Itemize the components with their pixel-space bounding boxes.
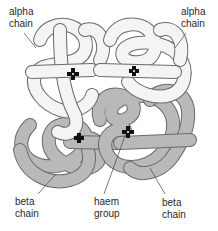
label-haem-group: haem group <box>94 196 120 220</box>
label-alpha-chain-left: alpha chain <box>9 6 33 30</box>
label-beta-chain-right: beta chain <box>162 197 186 221</box>
label-beta-chain-left: beta chain <box>15 196 39 220</box>
label-alpha-chain-right: alpha chain <box>181 6 205 30</box>
beta-chain-right <box>99 91 190 173</box>
